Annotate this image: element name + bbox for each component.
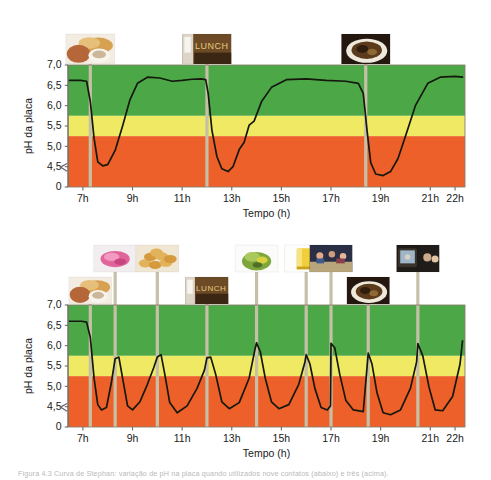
x-axis: 7h9h11h13h15h17h19h21h22hTempo (h) xyxy=(77,187,464,219)
x-axis-tick-label: 13h xyxy=(223,192,241,204)
y-axis-tick-label: 4,5 xyxy=(47,160,62,172)
y-axis-title: pH da placa xyxy=(22,338,34,394)
x-axis-tick-label: 9h xyxy=(127,192,139,204)
y-axis-tick-label: 5,0 xyxy=(47,140,62,152)
x-axis-tick-label: 11h xyxy=(174,432,191,444)
meal-event-photo-lunch-sign-photo: LUNCH xyxy=(185,277,228,304)
meal-event-photo-tv-photo xyxy=(396,245,439,272)
x-axis-tick-label: 22h xyxy=(446,432,464,444)
page-top-cut-text xyxy=(0,0,491,9)
svg-text:LUNCH: LUNCH xyxy=(196,284,226,293)
x-axis-tick-label: 21h xyxy=(421,192,439,204)
x-axis-tick-label: 17h xyxy=(322,192,340,204)
y-axis-tick-label: 5,0 xyxy=(47,380,62,392)
y-axis-tick-label: 6,0 xyxy=(47,339,62,351)
chart-three-contacts-canvas: LUNCH4,55,05,56,06,57,00pH da placa7h9h1… xyxy=(0,12,491,227)
x-axis-tick-label: 15h xyxy=(273,432,291,444)
zone-orange xyxy=(68,136,465,187)
zone-green xyxy=(68,305,465,356)
x-axis: 7h9h11h13h15h17h19h21h22hTempo (h) xyxy=(77,427,464,459)
ph-zone-bands xyxy=(68,65,465,187)
meal-event-stem xyxy=(89,303,92,427)
chart-nine-contacts-canvas: LUNCH4,55,05,56,06,57,00pH da placa7h9h1… xyxy=(0,235,491,470)
meal-event-photo-candy-photo xyxy=(94,245,137,272)
x-axis-tick-label: 7h xyxy=(77,192,89,204)
y-axis-tick-label: 4,5 xyxy=(47,400,62,412)
meal-event-stem xyxy=(156,271,159,427)
x-axis-tick-label: 11h xyxy=(174,192,191,204)
x-axis-tick-label: 19h xyxy=(372,192,390,204)
y-axis: 4,55,05,56,06,57,00 xyxy=(47,298,68,432)
x-axis-tick-label: 13h xyxy=(223,432,241,444)
y-axis: 4,55,05,56,06,57,00 xyxy=(47,58,68,192)
meal-event-photo-dinner-photo xyxy=(347,277,390,304)
meal-event-photo-salad-photo xyxy=(235,245,278,272)
figure-caption: Figura 4.3 Curva de Stephan: variação de… xyxy=(0,468,491,480)
y-axis-tick-label: 7,0 xyxy=(47,298,62,310)
y-axis-tick-label: 7,0 xyxy=(47,58,62,70)
meal-event-photo-snack-party-photo xyxy=(310,245,353,272)
zone-yellow xyxy=(68,116,465,136)
zone-yellow xyxy=(68,356,465,376)
meal-event-stem xyxy=(89,63,92,187)
y-axis-tick-label: 6,0 xyxy=(47,99,62,111)
svg-text:LUNCH: LUNCH xyxy=(195,41,229,51)
x-axis-tick-label: 7h xyxy=(77,432,89,444)
x-axis-tick-label: 21h xyxy=(421,432,439,444)
meal-event-photo-dinner-photo xyxy=(341,34,390,64)
y-axis-tick-label: 6,5 xyxy=(47,319,62,331)
meal-event-photo-lunch-sign-photo: LUNCH xyxy=(182,34,231,64)
ph-zone-bands xyxy=(68,305,465,427)
meal-event-photo-breakfast-photo xyxy=(69,277,112,304)
stephan-curve-figure: LUNCH4,55,05,56,06,57,00pH da placa7h9h1… xyxy=(0,0,491,480)
meal-event-photo-cookies-photo xyxy=(136,245,179,272)
y-axis-tick-label-zero: 0 xyxy=(56,420,62,432)
x-axis-tick-label: 22h xyxy=(446,192,464,204)
meal-event-stem xyxy=(114,271,117,427)
chart-nine-contacts: LUNCH4,55,05,56,06,57,00pH da placa7h9h1… xyxy=(0,235,491,470)
y-axis-tick-label: 6,5 xyxy=(47,79,62,91)
x-axis-title: Tempo (h) xyxy=(243,207,290,219)
x-axis-tick-label: 19h xyxy=(372,432,390,444)
meal-event-photo-breakfast-photo xyxy=(66,34,115,64)
y-axis-tick-label: 5,5 xyxy=(47,359,62,371)
x-axis-tick-label: 15h xyxy=(273,192,291,204)
x-axis-title: Tempo (h) xyxy=(243,447,290,459)
y-axis-tick-label: 5,5 xyxy=(47,119,62,131)
y-axis-tick-label-zero: 0 xyxy=(56,180,62,192)
meal-event-stem xyxy=(305,271,308,427)
y-axis-title: pH da placa xyxy=(22,98,34,154)
chart-three-contacts: LUNCH4,55,05,56,06,57,00pH da placa7h9h1… xyxy=(0,12,491,227)
figure-caption-text: Figura 4.3 Curva de Stephan: variação de… xyxy=(0,468,491,480)
x-axis-tick-label: 17h xyxy=(322,432,340,444)
x-axis-tick-label: 9h xyxy=(127,432,139,444)
